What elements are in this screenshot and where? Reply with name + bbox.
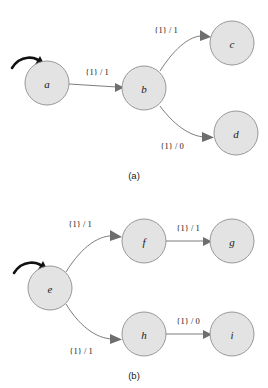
panel-b-caption: (b) [128,370,140,381]
node-h-label: h [141,329,147,341]
node-d-label: d [233,128,239,140]
edge-h-to-i [166,330,212,339]
edge-label-h-to-i: {1} / 0 [176,316,199,326]
edge-label-b-to-d: {1} / 0 [160,141,183,151]
arrowhead-e-to-f [110,230,122,241]
edge-label-b-to-c: {1} / 1 [154,25,177,35]
panel-a-diagram: a b c d {1} / 1 {1} / 1 {1} / 0 (a) [0,0,268,194]
node-e-label: e [48,283,53,295]
node-i[interactable]: i [210,312,254,356]
node-a[interactable]: a [25,61,69,105]
node-g[interactable]: g [210,219,254,263]
node-e[interactable]: e [28,266,72,310]
node-c[interactable]: c [210,21,254,65]
panel-b: e f g h i {1} / 1 {1} / 1 {1} / 1 {1} [0,194,268,388]
edge-label-a-to-b: {1} / 1 [85,67,108,77]
node-b-label: b [141,83,147,95]
node-d[interactable]: d [214,111,258,155]
edge-e-to-f [66,230,122,272]
node-b[interactable]: b [122,66,166,110]
node-g-label: g [229,236,235,248]
edge-label-e-to-h: {1} / 1 [69,346,92,356]
node-i-label: i [230,329,233,341]
node-h[interactable]: h [122,312,166,356]
arrowhead-b-to-d [202,132,214,142]
edge-e-to-h [66,304,122,344]
node-a-label: a [44,78,50,90]
edge-b-to-c [160,30,211,71]
node-f[interactable]: f [122,219,166,263]
node-c-label: c [230,38,235,50]
edge-b-to-d [160,106,214,142]
panel-a-caption: (a) [128,170,140,181]
panel-a: a b c d {1} / 1 {1} / 1 {1} / 0 (a) [0,0,268,194]
edge-label-e-to-f: {1} / 1 [68,219,91,229]
edge-a-to-b [69,83,124,92]
state-machine-figure: a b c d {1} / 1 {1} / 1 {1} / 0 (a) [0,0,268,388]
edge-label-f-to-g: {1} / 1 [176,223,199,233]
arrowhead-b-to-c [200,30,211,41]
arrowhead-e-to-h [110,334,122,344]
panel-b-diagram: e f g h i {1} / 1 {1} / 1 {1} / 1 {1} [0,194,268,388]
edge-f-to-g [166,237,212,246]
